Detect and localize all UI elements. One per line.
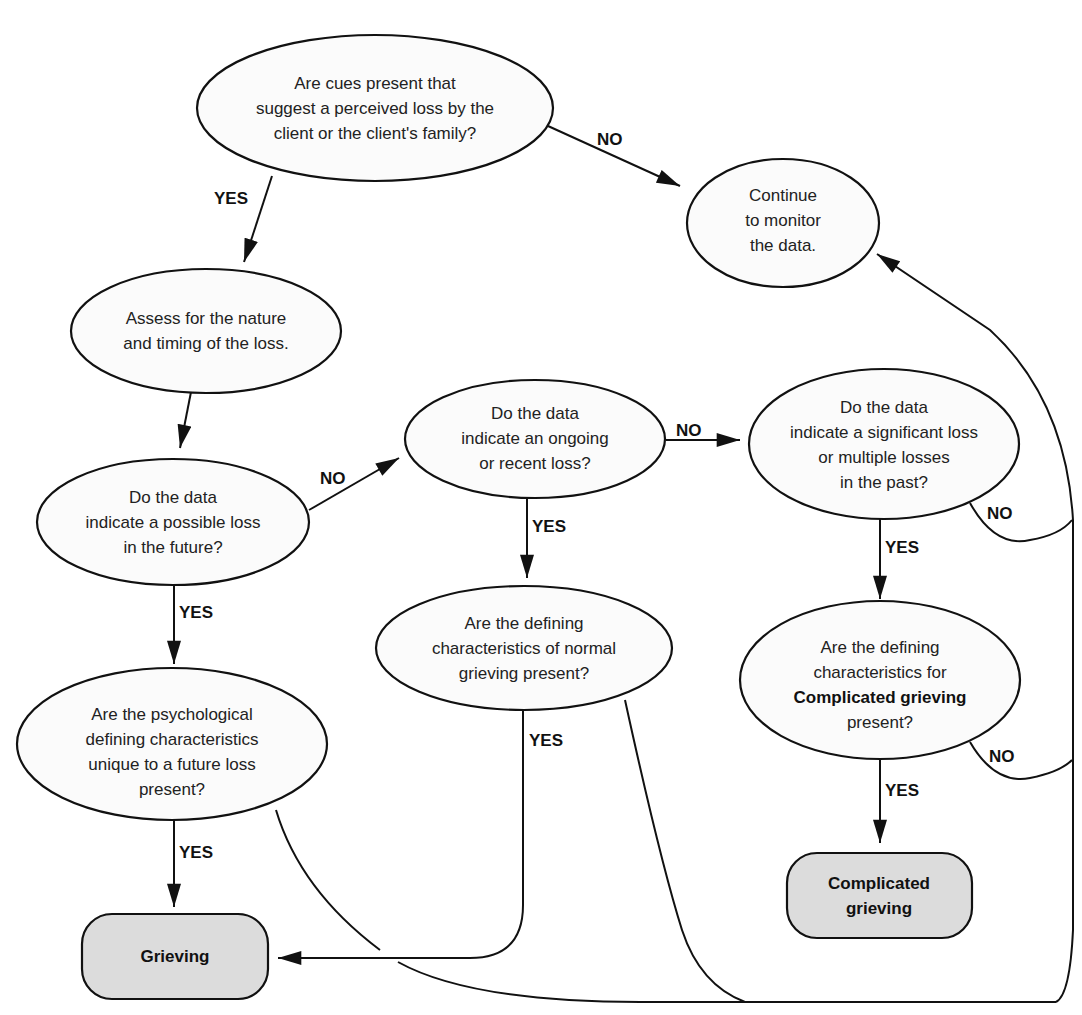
label-yes-psych: YES: [179, 843, 213, 862]
node-text-line-bold: Complicated grieving: [794, 688, 967, 707]
node-complicated-grieving-question[interactable]: Are the defining characteristics for Com…: [740, 601, 1020, 759]
node-text-line: indicate a possible loss: [86, 513, 261, 532]
node-text-line-bold: Grieving: [141, 947, 210, 966]
node-text-line: client or the client's family?: [274, 124, 477, 143]
edge-complicated-no-merge: [970, 742, 1072, 779]
node-future-question[interactable]: Do the data indicate a possible loss in …: [37, 459, 309, 585]
label-no-future: NO: [320, 469, 346, 488]
node-text-line: characteristics of normal: [432, 639, 616, 658]
node-psychological-question[interactable]: Are the psychological defining character…: [17, 668, 327, 820]
node-text-line: in the past?: [840, 473, 928, 492]
label-yes-cues: YES: [214, 189, 248, 208]
node-past-question[interactable]: Do the data indicate a significant loss …: [749, 369, 1019, 519]
node-assess[interactable]: Assess for the nature and timing of the …: [71, 269, 341, 393]
label-yes-ongoing: YES: [532, 517, 566, 536]
node-normal-grieving-question[interactable]: Are the defining characteristics of norm…: [376, 586, 672, 710]
label-yes-past: YES: [885, 538, 919, 557]
node-text-line: or recent loss?: [479, 454, 591, 473]
node-text-line: Are the psychological: [91, 705, 253, 724]
node-text-line: to monitor: [745, 211, 821, 230]
node-text-line: Do the data: [129, 488, 217, 507]
node-text-line: the data.: [750, 236, 816, 255]
node-text-line: defining characteristics: [86, 730, 259, 749]
node-text-line: Are the defining: [820, 638, 939, 657]
node-text-line: Are cues present that: [294, 74, 456, 93]
node-text-line: suggest a perceived loss by the: [256, 99, 494, 118]
label-no-past: NO: [987, 504, 1013, 523]
label-no-cues: NO: [597, 130, 623, 149]
label-yes-future: YES: [179, 603, 213, 622]
node-cues-question[interactable]: Are cues present that suggest a perceive…: [197, 35, 553, 181]
node-text-line-bold: grieving: [846, 899, 912, 918]
node-text-line: Are the defining: [464, 614, 583, 633]
node-text-line: Continue: [749, 186, 817, 205]
node-continue-monitor[interactable]: Continue to monitor the data.: [687, 159, 879, 287]
node-text-line: and timing of the loss.: [123, 334, 288, 353]
node-complicated-grieving-terminal[interactable]: Complicated grieving: [787, 853, 972, 938]
label-no-ongoing: NO: [676, 421, 702, 440]
node-text-line: Do the data: [491, 404, 579, 423]
edge-cues-to-assess: [244, 176, 272, 262]
node-text-line: unique to a future loss: [88, 755, 255, 774]
label-no-complicated: NO: [989, 747, 1015, 766]
node-text-line: in the future?: [123, 538, 222, 557]
node-grieving-terminal[interactable]: Grieving: [82, 914, 268, 999]
edge-past-no-merge: [970, 503, 1072, 541]
node-text-line: characteristics for: [813, 663, 947, 682]
label-yes-complicated: YES: [885, 781, 919, 800]
node-text-line: grieving present?: [459, 664, 589, 683]
node-text-line: or multiple losses: [818, 448, 949, 467]
node-text-line: Do the data: [840, 398, 928, 417]
node-text-line: indicate a significant loss: [790, 423, 978, 442]
node-text-line: Assess for the nature: [126, 309, 287, 328]
node-text-line: present?: [847, 713, 913, 732]
label-yes-normal: YES: [529, 731, 563, 750]
grieving-assessment-flowchart: Are cues present that suggest a perceive…: [0, 0, 1082, 1015]
node-text-line: present?: [139, 780, 205, 799]
edge-assess-to-future: [180, 392, 191, 448]
node-text-line-bold: Complicated: [828, 874, 930, 893]
node-ongoing-question[interactable]: Do the data indicate an ongoing or recen…: [405, 380, 665, 498]
node-text-line: indicate an ongoing: [461, 429, 608, 448]
